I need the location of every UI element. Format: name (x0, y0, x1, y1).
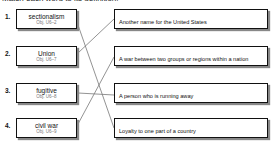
term-word: fugitive (17, 87, 76, 94)
match-line-4 (78, 57, 114, 124)
term-objective: Obj. U6–7 (17, 57, 76, 62)
term-objective: Obj. U6–2 (17, 20, 76, 25)
term-number-4: 4. (5, 122, 10, 129)
term-objective: Obj. U6–8 (17, 94, 76, 99)
definition-text: Loyalty to one part of a country (119, 128, 196, 134)
term-word: sectionalism (17, 13, 76, 20)
definition-box-3[interactable]: A person who is running away (114, 83, 268, 103)
term-box-civil-war[interactable]: civil war Obj. U6–9 (16, 118, 77, 138)
term-number-2: 2. (5, 50, 10, 57)
definition-box-4[interactable]: Loyalty to one part of a country (114, 118, 268, 138)
term-number-3: 3. (5, 87, 10, 94)
definition-box-1[interactable]: Another name for the United States (114, 9, 268, 29)
definition-text: A war between two groups or regions with… (119, 56, 248, 62)
term-box-sectionalism[interactable]: sectionalism Obj. U6–2 (16, 9, 77, 29)
definition-text: A person who is running away (119, 93, 193, 99)
term-box-union[interactable]: Union Obj. U6–7 (16, 46, 77, 66)
term-objective: Obj. U6–9 (17, 129, 76, 134)
match-line-2 (78, 19, 114, 53)
term-word: Union (17, 50, 76, 57)
term-number-1: 1. (5, 13, 10, 20)
definition-box-2[interactable]: A war between two groups or regions with… (114, 46, 268, 66)
match-line-3 (78, 93, 114, 95)
definition-text: Another name for the United States (119, 19, 207, 25)
match-line-1 (78, 25, 114, 128)
term-word: civil war (17, 122, 76, 129)
term-box-fugitive[interactable]: fugitive Obj. U6–8 (16, 83, 77, 103)
